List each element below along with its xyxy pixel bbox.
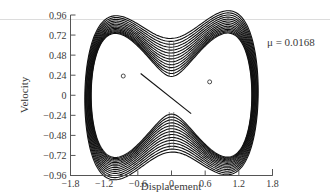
trajectory-loop [88,21,256,170]
equilibrium-point-marker [208,80,212,84]
trajectory-loop [85,13,257,178]
phase-portrait-chart: 0.960.720.480.240−0.24−0.48−0.72−0.96 −1… [0,0,330,192]
trajectory-loop [91,33,252,157]
y-tick-label: −0.24 [43,110,66,121]
trajectory-loop [85,11,258,180]
mu-annotation: μ = 0.0168 [267,36,315,48]
x-axis-label: Displacement [141,180,201,192]
diagonal-trajectory-segment [141,74,192,114]
center-markers [169,42,173,149]
trajectory-curves [85,11,258,180]
y-axis-label: Velocity [18,76,30,113]
y-tick-label: 0.48 [49,50,67,61]
trajectory-loop [87,17,257,173]
trajectory-loop [90,28,254,163]
trajectory-loop [86,15,257,175]
trajectory-loop [91,32,252,159]
y-tick-label: 0 [62,90,67,101]
trajectory-loop [87,19,256,171]
y-tick-label: 0.72 [49,30,67,41]
y-tick-label: 0.96 [49,10,67,21]
y-tick-label: 0.24 [49,70,67,81]
x-tick-label: −1.8 [61,178,79,189]
x-tick-label: 1.2 [233,178,246,189]
equilibrium-point-marker [121,74,125,78]
y-tick-label: −0.48 [43,130,66,141]
y-ticks: 0.960.720.480.240−0.24−0.48−0.72−0.96 [43,10,75,182]
y-tick-label: −0.72 [43,150,66,161]
trajectory-loop [90,29,253,161]
trajectory-loop [89,25,254,166]
x-tick-label: −1.2 [95,178,113,189]
x-tick-label: 1.8 [266,178,279,189]
